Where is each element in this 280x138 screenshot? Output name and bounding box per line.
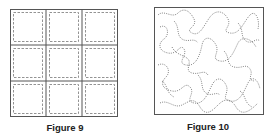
figure-10-caption: Figure 10: [178, 121, 238, 132]
figure-9-caption: Figure 9: [38, 122, 92, 133]
figure-9-grid: [10, 9, 118, 117]
figure-10-stipple: [154, 7, 264, 115]
